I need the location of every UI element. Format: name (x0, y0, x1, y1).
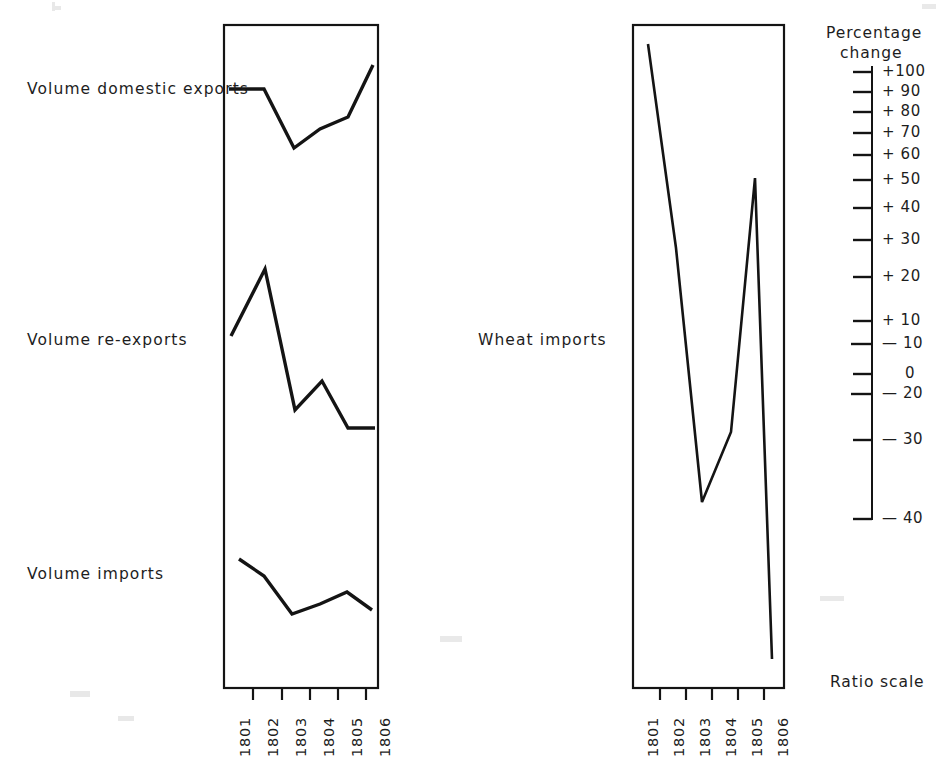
scale-tick-label-minus-50: — 40 (882, 509, 923, 527)
percentage-change-scale (851, 66, 872, 520)
scale-tick-label-plus-20: + 20 (882, 267, 921, 285)
wheat-imports-chart (633, 25, 784, 700)
series-line-volume-domestic-exports (229, 65, 373, 148)
x-tick-label-1803-right: 1803 (697, 717, 713, 757)
scale-tick-label-zero: 0 (905, 364, 915, 382)
scale-tick-label-plus-100: +100 (882, 62, 926, 80)
x-tick-label-1804-left: 1804 (321, 717, 337, 757)
volume-trade-chart (224, 25, 378, 700)
x-tick-label-1801-left: 1801 (237, 717, 253, 757)
scale-tick-label-plus-90: + 90 (882, 82, 921, 100)
volume-trade-plot-frame (224, 25, 378, 688)
scale-tick-label-plus-10: + 10 (882, 311, 921, 329)
series-label-volume-domestic-exports: Volume domestic exports (27, 80, 249, 98)
scale-tick-marks (851, 72, 872, 519)
series-label-volume-re-exports: Volume re-exports (27, 331, 188, 349)
series-label-volume-imports: Volume imports (27, 565, 164, 583)
x-tick-label-1801-right: 1801 (645, 717, 661, 757)
scale-tick-label-plus-40: + 40 (882, 198, 921, 216)
x-tick-label-1805-right: 1805 (749, 717, 765, 757)
x-tick-label-1806-left: 1806 (377, 717, 393, 757)
x-tick-label-1802-right: 1802 (671, 717, 687, 757)
x-tick-label-1806-right: 1806 (775, 717, 791, 757)
scale-tick-label-minus-30: — 30 (882, 430, 923, 448)
scale-tick-label-plus-60: + 60 (882, 145, 921, 163)
wheat-imports-x-ticks (660, 688, 764, 700)
x-tick-label-1805-left: 1805 (349, 717, 365, 757)
scale-tick-label-plus-50: + 50 (882, 170, 921, 188)
scale-title-change: change (840, 44, 902, 62)
scale-tick-label-plus-30: + 30 (882, 230, 921, 248)
scale-tick-label-minus-20: — 20 (882, 384, 923, 402)
series-line-wheat-imports (648, 44, 772, 659)
scale-tick-label-minus-10: — 10 (882, 334, 923, 352)
ratio-scale-label: Ratio scale (830, 673, 925, 691)
series-line-volume-imports (239, 559, 372, 614)
scale-tick-label-plus-80: + 80 (882, 102, 921, 120)
scale-title-percentage: Percentage (826, 24, 922, 42)
x-tick-label-1804-right: 1804 (723, 717, 739, 757)
x-tick-label-1802-left: 1802 (265, 717, 281, 757)
x-tick-label-1803-left: 1803 (293, 717, 309, 757)
series-line-volume-re-exports (231, 269, 375, 428)
scale-tick-label-plus-70: + 70 (882, 123, 921, 141)
paper-artifacts (52, 2, 936, 721)
series-label-wheat-imports: Wheat imports (478, 331, 607, 349)
volume-trade-x-ticks (253, 688, 366, 700)
